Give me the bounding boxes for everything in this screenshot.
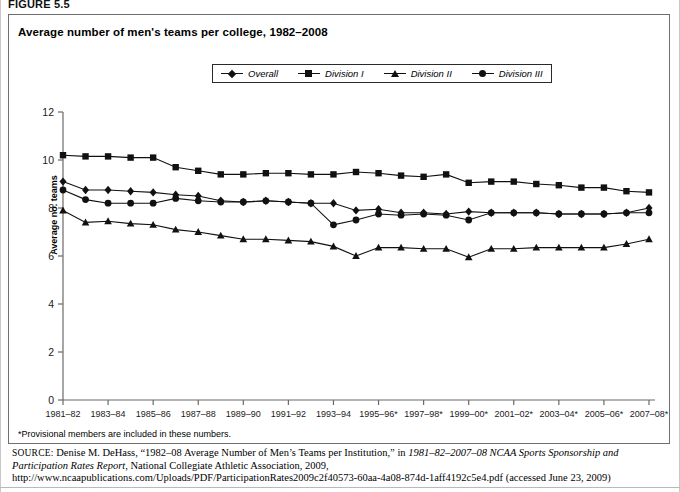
circle-marker bbox=[60, 187, 67, 194]
square-marker bbox=[105, 153, 111, 159]
square-marker bbox=[195, 168, 201, 174]
square-marker bbox=[578, 184, 584, 190]
diamond-marker bbox=[465, 207, 472, 215]
circle-marker bbox=[443, 212, 450, 219]
y-tick-label: 4 bbox=[48, 298, 54, 310]
circle-marker bbox=[601, 211, 608, 218]
x-tick-label: 2007–08* bbox=[630, 409, 669, 419]
page-bottom-rule bbox=[0, 487, 680, 488]
square-marker bbox=[398, 172, 404, 178]
y-tick-label: 2 bbox=[48, 346, 54, 358]
x-tick-label: 1993–94 bbox=[316, 409, 351, 419]
source-note: SOURCE: Denise M. DeHass, “1982–08 Avera… bbox=[12, 447, 672, 485]
circle-marker bbox=[353, 217, 360, 224]
square-marker bbox=[601, 184, 607, 190]
diamond-marker bbox=[105, 186, 112, 194]
triangle-marker bbox=[645, 235, 653, 242]
chart-footnote: *Provisional members are included in the… bbox=[18, 429, 231, 439]
circle-marker bbox=[465, 217, 472, 224]
x-tick-label: 1981–82 bbox=[45, 409, 80, 419]
square-marker bbox=[646, 189, 652, 195]
circle-marker bbox=[105, 200, 112, 207]
circle-marker bbox=[420, 211, 427, 218]
circle-marker bbox=[623, 209, 630, 216]
figure-panel: FIGURE 5.5 Average number of men's teams… bbox=[0, 0, 680, 492]
square-marker bbox=[285, 170, 291, 176]
square-marker bbox=[127, 154, 133, 160]
square-marker bbox=[172, 164, 178, 170]
x-tick-label: 1991–92 bbox=[271, 409, 306, 419]
circle-marker bbox=[330, 221, 337, 228]
x-tick-label: 1985–86 bbox=[136, 409, 171, 419]
y-tick-label: 8 bbox=[48, 202, 54, 214]
circle-marker bbox=[172, 195, 179, 202]
circle-marker bbox=[533, 209, 540, 216]
square-marker bbox=[556, 182, 562, 188]
circle-marker bbox=[646, 209, 653, 216]
source-label: SOURCE: bbox=[12, 448, 54, 458]
square-marker bbox=[218, 171, 224, 177]
x-tick-label: 1987–88 bbox=[181, 409, 216, 419]
square-marker bbox=[488, 178, 494, 184]
square-marker bbox=[375, 170, 381, 176]
circle-marker bbox=[578, 211, 585, 218]
x-tick-label: 2005–06* bbox=[585, 409, 624, 419]
square-marker bbox=[465, 180, 471, 186]
square-marker bbox=[420, 174, 426, 180]
triangle-marker bbox=[104, 217, 112, 224]
circle-marker bbox=[217, 199, 224, 206]
x-tick-label: 1999–00* bbox=[449, 409, 488, 419]
y-tick-label: 10 bbox=[42, 154, 54, 166]
square-marker bbox=[263, 170, 269, 176]
series-overall bbox=[60, 177, 653, 218]
y-tick-label: 6 bbox=[48, 250, 54, 262]
square-marker bbox=[60, 152, 66, 158]
circle-marker bbox=[240, 199, 247, 206]
square-marker bbox=[623, 188, 629, 194]
diamond-marker bbox=[330, 199, 337, 207]
x-tick-label: 2003–04* bbox=[540, 409, 579, 419]
square-marker bbox=[353, 169, 359, 175]
square-marker bbox=[308, 171, 314, 177]
square-marker bbox=[240, 171, 246, 177]
circle-marker bbox=[82, 196, 89, 203]
diamond-marker bbox=[150, 188, 157, 196]
circle-marker bbox=[398, 212, 405, 219]
circle-marker bbox=[127, 200, 134, 207]
x-tick-label: 1997–98* bbox=[404, 409, 443, 419]
circle-marker bbox=[488, 209, 495, 216]
circle-marker bbox=[150, 200, 157, 207]
y-tick-label: 0 bbox=[48, 394, 54, 406]
plot-area: 0246810121981–821983–841985–861987–88198… bbox=[0, 0, 680, 430]
square-marker bbox=[330, 171, 336, 177]
diamond-marker bbox=[353, 206, 360, 214]
diamond-marker bbox=[60, 177, 67, 185]
circle-marker bbox=[262, 197, 269, 204]
circle-marker bbox=[308, 200, 315, 207]
circle-marker bbox=[285, 199, 292, 206]
x-tick-label: 1983–84 bbox=[91, 409, 126, 419]
x-tick-label: 2001–02* bbox=[494, 409, 533, 419]
source-text-1: Denise M. DeHass, “1982–08 Average Numbe… bbox=[54, 447, 409, 458]
y-tick-label: 12 bbox=[42, 106, 54, 118]
circle-marker bbox=[510, 209, 517, 216]
circle-marker bbox=[195, 197, 202, 204]
x-tick-label: 1989–90 bbox=[226, 409, 261, 419]
square-marker bbox=[443, 171, 449, 177]
line-chart-svg: 0246810121981–821983–841985–861987–88198… bbox=[0, 0, 680, 430]
circle-marker bbox=[375, 211, 382, 218]
diamond-marker bbox=[82, 186, 89, 194]
square-marker bbox=[82, 153, 88, 159]
circle-marker bbox=[555, 211, 562, 218]
diamond-marker bbox=[127, 187, 134, 195]
square-marker bbox=[533, 181, 539, 187]
square-marker bbox=[150, 154, 156, 160]
square-marker bbox=[511, 178, 517, 184]
x-tick-label: 1995–96* bbox=[359, 409, 398, 419]
series-division-i bbox=[60, 152, 652, 196]
